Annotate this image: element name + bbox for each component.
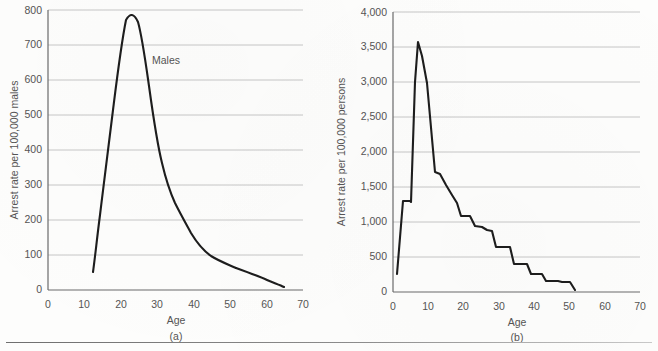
ytick-a-800: 800 [24, 4, 42, 16]
ytick-a-0: 0 [36, 283, 42, 295]
xtick-a-40: 40 [188, 298, 200, 310]
ytick-b-4000: 4,000 [361, 6, 387, 18]
ytick-b-2000: 2,000 [361, 145, 387, 157]
chart-b-series-persons [397, 42, 575, 290]
xaxis-title-b: Age [508, 316, 527, 328]
ytick-b-1500: 1,500 [361, 180, 387, 192]
chart-a-gridlines [48, 10, 303, 255]
xtick-b-0: 0 [390, 300, 396, 312]
figure-container: 0 100 200 300 400 500 600 700 800 0 10 2… [0, 0, 658, 351]
chart-b-svg: 0 500 1,000 1,500 2,000 2,500 3,000 3,50… [330, 0, 658, 351]
xtick-a-30: 30 [151, 298, 163, 310]
caption-a: (a) [170, 330, 183, 342]
xtick-a-70: 70 [297, 298, 309, 310]
xtick-b-40: 40 [528, 300, 540, 312]
ytick-a-400: 400 [24, 143, 42, 155]
ytick-a-700: 700 [24, 38, 42, 50]
xtick-b-70: 70 [634, 300, 646, 312]
ytick-a-300: 300 [24, 178, 42, 190]
ytick-a-200: 200 [24, 213, 42, 225]
xtick-b-60: 60 [599, 300, 611, 312]
ytick-b-2500: 2,500 [361, 110, 387, 122]
xtick-b-20: 20 [457, 300, 469, 312]
ytick-a-100: 100 [24, 248, 42, 260]
series-label-males: Males [152, 54, 180, 66]
xtick-a-20: 20 [115, 298, 127, 310]
xtick-a-60: 60 [261, 298, 273, 310]
chart-panel-b: 0 500 1,000 1,500 2,000 2,500 3,000 3,50… [330, 0, 658, 351]
chart-a-svg: 0 100 200 300 400 500 600 700 800 0 10 2… [0, 0, 330, 351]
ytick-a-600: 600 [24, 73, 42, 85]
chart-b-ytick-labels: 0 500 1,000 1,500 2,000 2,500 3,000 3,50… [361, 6, 387, 297]
ytick-a-500: 500 [24, 108, 42, 120]
chart-panel-a: 0 100 200 300 400 500 600 700 800 0 10 2… [0, 0, 330, 351]
xtick-a-50: 50 [224, 298, 236, 310]
xtick-b-50: 50 [563, 300, 575, 312]
chart-b-gridlines [393, 12, 640, 257]
chart-a-ytick-labels: 0 100 200 300 400 500 600 700 800 [24, 4, 42, 295]
yaxis-title-b: Arrest rate per 100,000 persons [335, 78, 347, 226]
chart-a-series-males [93, 15, 284, 287]
xtick-a-10: 10 [78, 298, 90, 310]
ytick-b-3000: 3,000 [361, 75, 387, 87]
figure-separator-rule [6, 342, 652, 343]
xtick-a-0: 0 [45, 298, 51, 310]
ytick-b-3500: 3,500 [361, 40, 387, 52]
xtick-b-30: 30 [493, 300, 505, 312]
ytick-b-500: 500 [369, 250, 387, 262]
ytick-b-0: 0 [381, 285, 387, 297]
chart-a-xtick-labels: 0 10 20 30 40 50 60 70 [45, 298, 309, 310]
yaxis-title-a: Arrest rate per 100,000 males [8, 81, 20, 220]
xtick-b-10: 10 [422, 300, 434, 312]
ytick-b-1000: 1,000 [361, 215, 387, 227]
chart-b-xtick-labels: 0 10 20 30 40 50 60 70 [390, 300, 646, 312]
xaxis-title-a: Age [167, 314, 186, 326]
